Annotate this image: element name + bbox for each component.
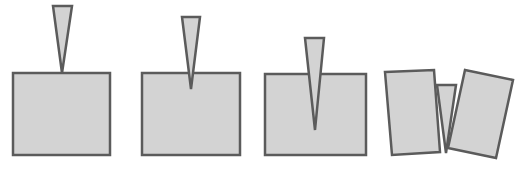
panel-stage-4 — [385, 70, 513, 158]
diagram-canvas — [0, 0, 527, 171]
right-split-piece — [448, 70, 513, 158]
wedge-stage-1 — [53, 6, 72, 73]
left-split-piece — [385, 70, 440, 155]
panel-stage-2 — [142, 17, 240, 155]
block-stage-1 — [13, 73, 110, 155]
panel-stage-3 — [265, 38, 366, 155]
wedge-splitting-diagram — [0, 0, 527, 171]
panel-stage-1 — [13, 6, 110, 155]
